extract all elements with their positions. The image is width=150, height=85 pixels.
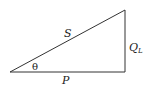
label-p: P [62, 75, 69, 85]
label-ql: QL [129, 42, 143, 55]
hypotenuse-line [10, 10, 125, 72]
label-theta: θ [32, 62, 38, 72]
label-s: S [64, 28, 72, 39]
label-q: Q [129, 41, 138, 54]
label-l-subscript: L [138, 47, 143, 55]
triangle [0, 0, 150, 85]
